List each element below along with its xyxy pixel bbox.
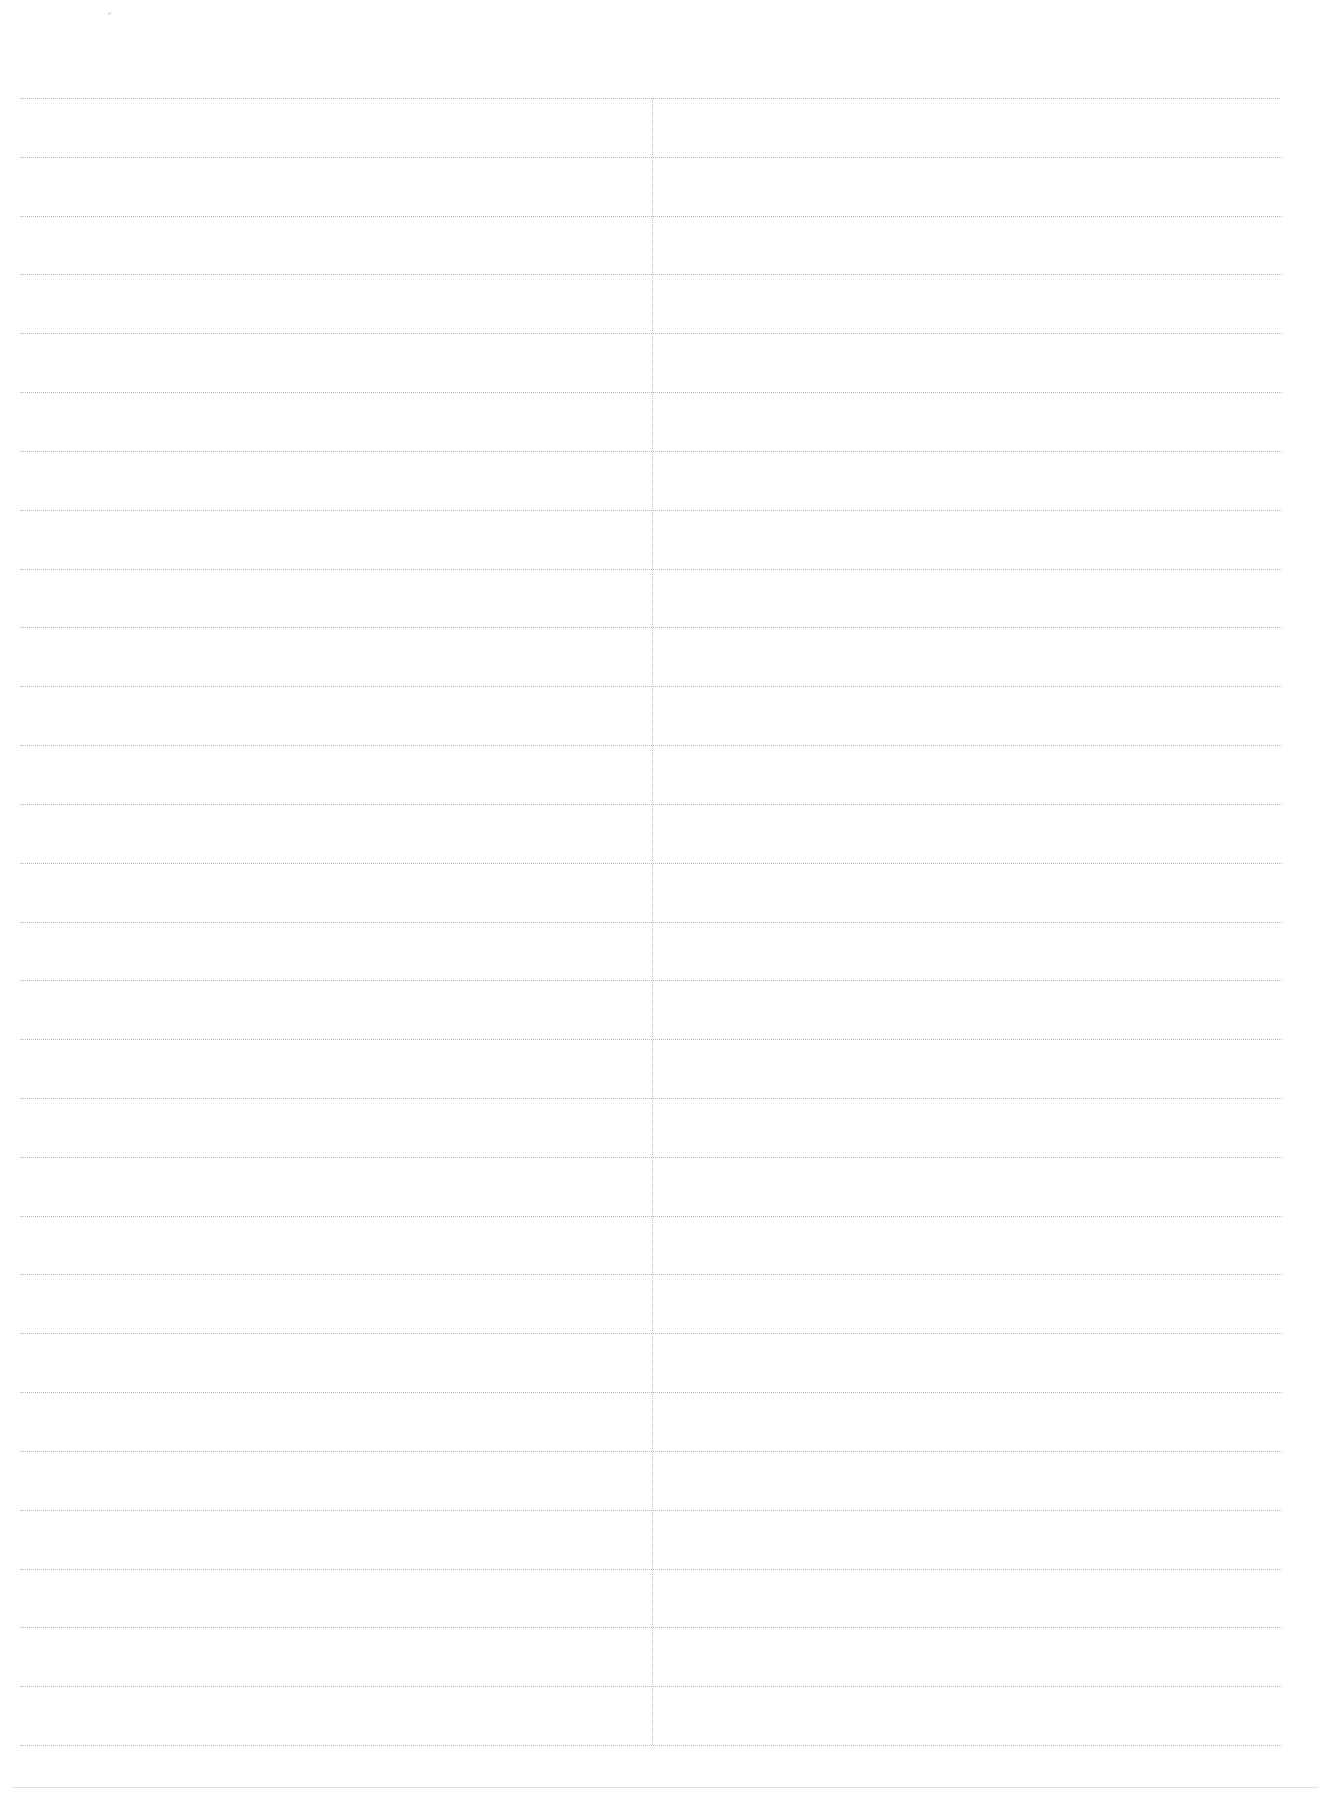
table-cell-right (654, 864, 1282, 922)
table-cell-left (20, 1628, 651, 1686)
table-cell-left (20, 570, 651, 628)
table-cell-right (654, 570, 1282, 628)
table-cell-left (20, 864, 651, 922)
table-cell-right (654, 1217, 1282, 1275)
table-cell-right (654, 687, 1282, 745)
table-cell-left (20, 452, 651, 510)
table-cell-left (20, 805, 651, 863)
table-cell-left (20, 1217, 651, 1275)
table-cell-left (20, 1452, 651, 1510)
table-cell-left (20, 1334, 651, 1392)
table-cell-right (654, 334, 1282, 392)
table-cell-left (20, 511, 651, 569)
table-cell-right (654, 1393, 1282, 1451)
table-cell-right (654, 1628, 1282, 1686)
table-cell-right (654, 981, 1282, 1039)
table-cell-right (654, 275, 1282, 333)
table-cell-right (654, 923, 1282, 981)
table-cell-right (654, 628, 1282, 686)
table-cell-left (20, 1099, 651, 1157)
table-cell-left (20, 628, 651, 686)
table-cell-left (20, 99, 651, 157)
ruled-line (20, 1745, 1282, 1746)
table-cell-right (654, 805, 1282, 863)
ruled-sheet (0, 0, 1342, 1817)
table-cell-right (654, 1334, 1282, 1392)
table-cell-left (20, 746, 651, 804)
table-cell-left (20, 923, 651, 981)
table-cell-left (20, 334, 651, 392)
table-cell-right (654, 217, 1282, 275)
table-cell-left (20, 1570, 651, 1628)
table-cell-right (654, 1040, 1282, 1098)
table-cell-right (654, 158, 1282, 216)
table-cell-right (654, 393, 1282, 451)
table-cell-right (654, 99, 1282, 157)
table-cell-right (654, 1452, 1282, 1510)
table-cell-left (20, 275, 651, 333)
table-cell-right (654, 1570, 1282, 1628)
table-cell-right (654, 1275, 1282, 1333)
table-cell-left (20, 1040, 651, 1098)
table-cell-right (654, 746, 1282, 804)
table-cell-left (20, 393, 651, 451)
scan-speck (108, 12, 111, 15)
table-cell-left (20, 158, 651, 216)
table-cell-left (20, 981, 651, 1039)
table-cell-left (20, 1687, 651, 1745)
table-cell-left (20, 687, 651, 745)
table-cell-right (654, 452, 1282, 510)
table-cell-right (654, 1158, 1282, 1216)
table-cell-left (20, 1511, 651, 1569)
table-cell-right (654, 1099, 1282, 1157)
table-cell-right (654, 1511, 1282, 1569)
table-cell-left (20, 1393, 651, 1451)
table-cell-left (20, 1275, 651, 1333)
table-cell-right (654, 511, 1282, 569)
table-cell-right (654, 1687, 1282, 1745)
table-cell-left (20, 1158, 651, 1216)
bottom-rule (12, 1787, 1318, 1788)
table-cell-left (20, 217, 651, 275)
